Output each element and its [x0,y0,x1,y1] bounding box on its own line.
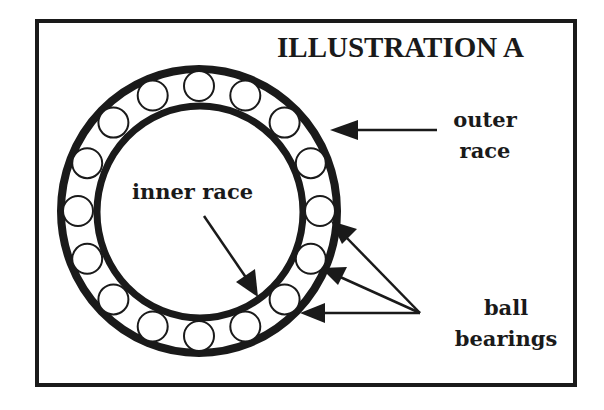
ball-bearing [138,312,168,342]
inner-race-label: inner race [132,181,253,202]
ball-bearing [72,148,102,178]
ball-bearing [296,244,326,274]
ball-bearing [138,81,168,111]
outer-race-label: outer race [451,104,519,166]
ball-bearing [270,108,300,138]
ball-bearing [98,284,128,314]
outer-race-label-line1: outer [451,104,519,135]
ball-bearing [98,108,128,138]
outer-race-arrow [330,120,437,140]
ball-bearing [270,284,300,314]
ball-bearing [63,196,93,226]
ball-bearing [230,81,260,111]
ball-bearings-label: ball bearings [452,292,560,354]
ball-bearing [184,71,214,101]
ball-bearing [305,196,335,226]
inner-race-ring [97,106,303,318]
ball-bearing [72,244,102,274]
ball-bearings-label-line2: bearings [452,323,560,354]
illustration-title: ILLUSTRATION A [277,33,524,62]
ball-bearings-label-line1: ball [452,292,560,323]
ball-bearing [230,312,260,342]
ball-bearing [296,148,326,178]
ball-bearing [184,321,214,351]
inner-race-arrow [204,216,258,297]
outer-race-label-line2: race [451,135,519,166]
ball-bearings-group [63,71,335,351]
